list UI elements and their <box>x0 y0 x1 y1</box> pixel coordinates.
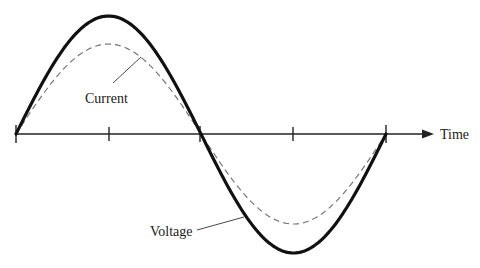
axis-arrowhead-icon <box>422 130 434 139</box>
voltage-leader-line <box>197 217 244 230</box>
voltage-label: Voltage <box>150 224 193 239</box>
current-leader-line <box>113 57 141 83</box>
current-label: Current <box>85 91 128 106</box>
waveform-diagram: Current Voltage Time <box>0 0 480 268</box>
time-axis-label: Time <box>440 127 469 142</box>
